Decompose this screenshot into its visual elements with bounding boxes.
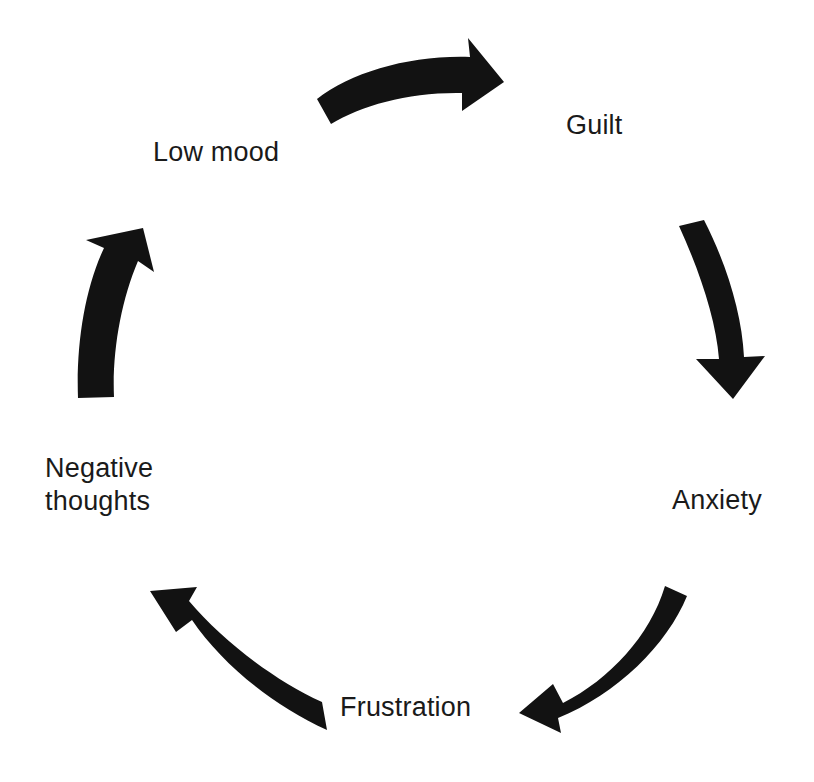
node-label-low-mood: Low mood <box>153 136 279 169</box>
node-label-guilt: Guilt <box>566 109 623 142</box>
node-label-anxiety: Anxiety <box>672 484 762 517</box>
arrow-negative-thoughts-to-low-mood-icon <box>78 228 154 398</box>
arrow-guilt-to-anxiety-icon <box>679 220 765 399</box>
cycle-arrows-graphic <box>0 0 814 782</box>
node-label-frustration: Frustration <box>340 691 471 724</box>
node-label-negative-thoughts: Negative thoughts <box>45 452 153 518</box>
arrow-low-mood-to-guilt-icon <box>317 38 504 124</box>
arrow-anxiety-to-frustration-icon <box>519 586 687 733</box>
arrow-frustration-to-negative-thoughts-icon <box>150 587 327 730</box>
cycle-diagram-canvas: Guilt Anxiety Frustration Negative thoug… <box>0 0 814 782</box>
